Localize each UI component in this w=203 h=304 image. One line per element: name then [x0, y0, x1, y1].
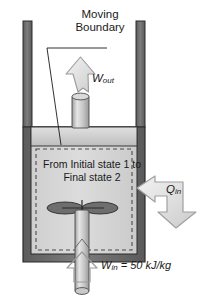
heat-in-label: Qin — [166, 183, 181, 197]
piston-cylinder-diagram: Moving Boundary Wout Qin Win = 50 kJ/kg … — [0, 0, 203, 304]
piston-rod — [72, 93, 89, 128]
work-out-subscript: out — [103, 76, 114, 85]
heat-in-symbol: Q — [166, 183, 175, 195]
process-state-label: From Initial state 1 to Final state 2 — [40, 158, 144, 184]
work-in-label: Win = 50 kJ/kg — [101, 259, 171, 273]
work-out-symbol: W — [92, 72, 103, 84]
work-out-arrow — [66, 57, 95, 92]
moving-boundary-label: Moving Boundary — [58, 8, 142, 34]
work-in-value: = 50 kJ/kg — [118, 259, 172, 271]
heat-in-subscript: in — [175, 187, 181, 196]
work-in-symbol: W — [101, 259, 111, 271]
work-out-label: Wout — [92, 72, 114, 86]
piston-head — [31, 127, 137, 146]
